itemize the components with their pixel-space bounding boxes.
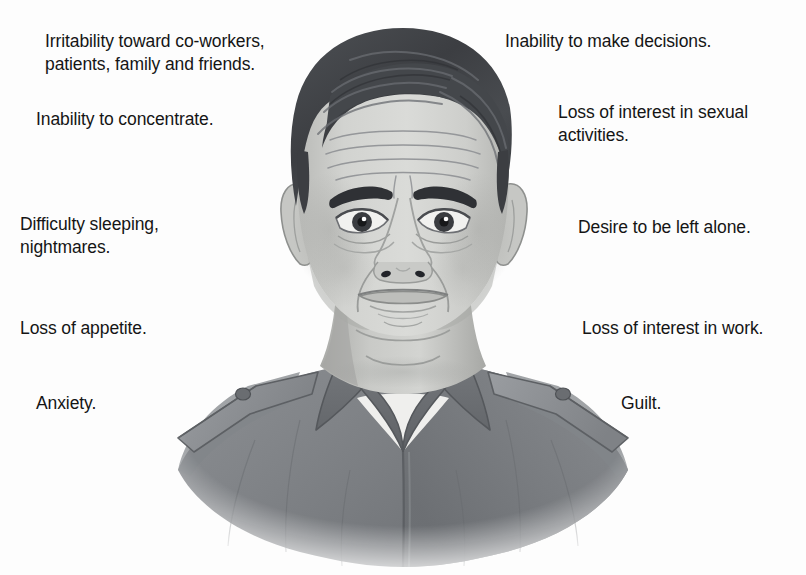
label-loss-of-interest-in-sexual-activities: Loss of interest in sexual activities. xyxy=(558,101,748,147)
eyebrow-left xyxy=(329,186,393,208)
shoulder-left xyxy=(178,372,300,476)
label-inability-to-concentrate: Inability to concentrate. xyxy=(36,108,213,131)
mouth-line xyxy=(358,290,448,295)
shirt-torso xyxy=(178,360,628,567)
face-shape xyxy=(297,56,508,336)
shirt-group xyxy=(178,353,628,568)
neck xyxy=(320,282,486,394)
forehead-wrinkles xyxy=(326,131,480,180)
epaulette-right xyxy=(488,372,628,452)
label-irritability: Irritability toward co-workers, patients… xyxy=(45,30,265,76)
label-loss-of-appetite: Loss of appetite. xyxy=(20,317,147,340)
collar-right xyxy=(403,362,490,452)
ears-group xyxy=(281,184,527,265)
stress-symptoms-figure: Irritability toward co-workers, patients… xyxy=(0,0,806,575)
shirt-placket-shadow xyxy=(409,452,410,567)
label-loss-of-interest-in-work: Loss of interest in work. xyxy=(582,317,763,340)
chin-crease xyxy=(384,322,422,327)
lower-lip xyxy=(370,306,436,312)
collar-band xyxy=(336,353,470,393)
undershirt xyxy=(357,394,449,453)
shirt-torso-right xyxy=(403,360,628,567)
shirt-placket xyxy=(403,452,404,567)
sideburn-right xyxy=(497,150,509,214)
ear-right xyxy=(494,184,527,265)
ear-left xyxy=(281,184,314,265)
hair-sweep xyxy=(326,63,509,182)
epaulette-button-left xyxy=(236,388,251,400)
shirt-folds xyxy=(228,420,578,566)
label-inability-to-make-decisions: Inability to make decisions. xyxy=(505,30,711,53)
nose xyxy=(374,198,433,283)
nostril-left xyxy=(380,270,391,278)
hair xyxy=(291,28,512,206)
nasolabial-right xyxy=(432,268,448,312)
pupil-left xyxy=(357,217,366,226)
sideburn-left xyxy=(297,150,309,214)
undershirt-neckline xyxy=(352,386,454,392)
hair-group xyxy=(291,28,512,214)
eyebrow-right xyxy=(413,186,477,208)
eye-left xyxy=(334,209,394,253)
throat-line-1 xyxy=(356,330,450,341)
throat-line-2 xyxy=(366,356,440,365)
label-guilt: Guilt. xyxy=(621,392,661,415)
label-anxiety: Anxiety. xyxy=(36,392,96,415)
hair-strands xyxy=(318,52,506,164)
eyebag-right xyxy=(416,234,468,243)
label-difficulty-sleeping: Difficulty sleeping, nightmares. xyxy=(20,213,159,259)
eyebag-left xyxy=(338,234,390,243)
shoulder-right xyxy=(506,372,628,476)
pupil-right xyxy=(439,217,448,226)
distressed-man-bust-illustration xyxy=(0,0,806,575)
face-group xyxy=(292,56,516,336)
neck-group xyxy=(320,282,486,394)
iris-right xyxy=(434,212,454,232)
eye-right xyxy=(412,209,472,253)
epaulette-left xyxy=(178,372,318,452)
iris-left xyxy=(352,212,372,232)
mouth xyxy=(358,290,448,319)
nostril-right xyxy=(414,270,425,278)
nasolabial-left xyxy=(358,268,374,312)
label-desire-to-be-left-alone: Desire to be left alone. xyxy=(578,216,751,239)
epaulette-button-right xyxy=(556,388,571,400)
collar-left xyxy=(316,362,403,452)
